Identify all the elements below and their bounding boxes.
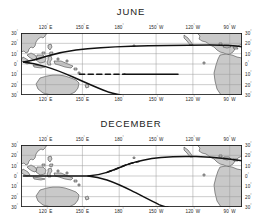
xtick-top-december-5: 90° W	[224, 137, 236, 142]
xtick-top-june-3: 150° W	[149, 25, 164, 30]
ytick-right-december-2: 10°	[245, 163, 252, 168]
xtick-top-june-0: 120° E	[39, 25, 53, 30]
ytick-left-june-6: 30°	[3, 93, 18, 98]
ytick-right-december-0: 30°	[245, 143, 252, 148]
xtick-bottom-december-4: 120° W	[185, 209, 200, 214]
xtick-top-june-4: 120° W	[185, 25, 200, 30]
ytick-left-december-0: 30°	[3, 143, 18, 148]
ytick-left-june-2: 10°	[3, 51, 18, 56]
ytick-right-june-4: 10°	[245, 72, 252, 77]
panel-june: JUNE	[0, 0, 262, 112]
ytick-right-june-0: 30°	[245, 31, 252, 36]
ytick-left-december-5: 20°	[3, 194, 18, 199]
xtick-bottom-june-3: 150° W	[149, 97, 164, 102]
ytick-left-june-5: 20°	[3, 82, 18, 87]
ytick-left-december-3: 0°	[3, 174, 18, 179]
map-june	[21, 33, 242, 95]
xtick-bottom-june-2: 180°	[115, 97, 124, 102]
xtick-top-june-5: 90° W	[224, 25, 236, 30]
xtick-bottom-june-5: 90° W	[224, 97, 236, 102]
ytick-right-june-2: 10°	[245, 51, 252, 56]
ytick-right-june-6: 30°	[245, 93, 252, 98]
map-svg-december	[21, 145, 242, 207]
map-svg-june	[21, 33, 242, 95]
ytick-right-december-3: 0°	[245, 174, 249, 179]
ytick-left-june-3: 0°	[3, 62, 18, 67]
xtick-bottom-june-0: 120° E	[39, 97, 53, 102]
ytick-left-december-6: 30°	[3, 205, 18, 210]
xtick-top-december-1: 150° E	[76, 137, 90, 142]
panel-title-december: DECEMBER	[0, 118, 262, 129]
figure-seasonal-convergence-zones: JUNE	[0, 0, 262, 224]
xtick-bottom-december-0: 120° E	[39, 209, 53, 214]
ytick-left-december-4: 10°	[3, 184, 18, 189]
ytick-left-june-1: 20°	[3, 41, 18, 46]
panel-december: DECEMBER	[0, 112, 262, 224]
ytick-right-june-3: 0°	[245, 62, 249, 67]
ytick-right-december-1: 20°	[245, 153, 252, 158]
xtick-top-december-0: 120° E	[39, 137, 53, 142]
ytick-left-december-1: 20°	[3, 153, 18, 158]
ytick-right-december-5: 20°	[245, 194, 252, 199]
map-december	[21, 145, 242, 207]
xtick-top-december-2: 180°	[115, 137, 124, 142]
xtick-bottom-june-4: 120° W	[185, 97, 200, 102]
xtick-bottom-december-3: 150° W	[149, 209, 164, 214]
xtick-top-december-4: 120° W	[185, 137, 200, 142]
xtick-top-june-1: 150° E	[76, 25, 90, 30]
ytick-right-december-4: 10°	[245, 184, 252, 189]
ytick-right-june-1: 20°	[245, 41, 252, 46]
xtick-bottom-december-5: 90° W	[224, 209, 236, 214]
xtick-bottom-december-1: 150° E	[76, 209, 90, 214]
ytick-right-june-5: 20°	[245, 82, 252, 87]
panel-title-june: JUNE	[0, 6, 262, 17]
ytick-right-december-6: 30°	[245, 205, 252, 210]
xtick-bottom-june-1: 150° E	[76, 97, 90, 102]
ytick-left-december-2: 10°	[3, 163, 18, 168]
xtick-top-june-2: 180°	[115, 25, 124, 30]
xtick-top-december-3: 150° W	[149, 137, 164, 142]
ytick-left-june-0: 30°	[3, 31, 18, 36]
ytick-left-june-4: 10°	[3, 72, 18, 77]
xtick-bottom-december-2: 180°	[115, 209, 124, 214]
